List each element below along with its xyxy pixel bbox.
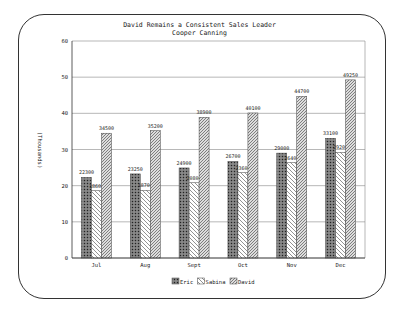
bar-value-label: 44700 [294,88,309,94]
bar-david [199,117,209,258]
bar-value-label: 35200 [148,123,163,129]
bar-value-label: 38900 [197,109,212,115]
bar-david [101,133,111,258]
bar-sabina [287,163,297,258]
bar-value-label: 23250 [128,166,143,172]
legend-swatch-david [230,278,237,284]
y-tick-label: 60 [61,38,68,44]
bar-sabina [140,190,150,258]
x-tick-label: Nov [287,262,298,268]
bar-value-label: 49250 [343,72,358,78]
bar-eric [81,177,91,258]
legend-swatch-sabina [198,278,205,284]
bar-chart: 2230018600345002325018700352002490020800… [0,0,399,311]
x-tick-label: Aug [140,262,150,269]
chart-bars: 2230018600345002325018700352002490020800… [79,72,358,258]
y-tick-label: 30 [61,147,68,153]
bar-david [150,131,160,258]
chart-grid [72,41,365,258]
x-tick-label: Jul [91,262,101,268]
x-tick-label: Dec [336,262,346,268]
bar-sabina [91,191,101,258]
y-tick-label: 0 [65,255,68,261]
bar-david [297,96,307,258]
bar-value-label: 29000 [274,145,289,151]
y-tick-label: 20 [61,183,68,189]
bar-david [248,113,258,258]
y-tick-label: 40 [61,110,68,116]
legend-label: Sabina [206,279,226,285]
legend-swatch-eric [172,278,179,284]
bar-value-label: 26700 [225,153,240,159]
bar-value-label: 24900 [177,160,192,166]
chart-legend: EricSabinaDavid [172,278,255,285]
bar-eric [326,138,336,258]
x-tick-label: Oct [238,262,248,268]
y-axis-label: (Thousands) [37,132,43,168]
bar-eric [228,161,238,258]
bar-value-label: 33100 [323,130,338,136]
bar-value-label: 22300 [79,169,94,175]
bar-eric [179,168,189,258]
bar-value-label: 40100 [245,105,260,111]
y-tick-label: 10 [61,219,68,225]
bar-sabina [238,173,248,258]
bar-value-label: 34500 [99,125,114,131]
x-tick-label: Sept [187,262,200,269]
bar-eric [277,153,287,258]
bar-sabina [189,183,199,258]
legend-label: Eric [180,279,193,285]
legend-label: David [238,279,255,285]
y-tick-label: 50 [61,74,68,80]
bar-david [346,80,356,258]
bar-sabina [336,152,346,258]
